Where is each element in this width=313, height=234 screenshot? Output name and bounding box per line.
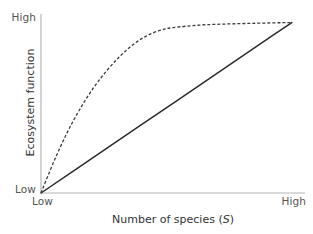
series-group — [41, 23, 292, 193]
x-axis-tick-high: High — [268, 195, 306, 207]
series-line-linear — [41, 23, 292, 193]
x-axis-title: Number of species (S) — [41, 213, 305, 226]
y-axis-tick-high: High — [0, 11, 36, 23]
x-axis-title-text: Number of species ( — [112, 213, 223, 226]
x-axis-title-variable: S — [223, 213, 230, 226]
x-axis-tick-low: Low — [32, 195, 53, 207]
x-axis-title-suffix: ) — [230, 213, 234, 226]
y-axis-tick-low: Low — [0, 183, 36, 195]
chart-figure: High Low Low High Ecosystem function Num… — [0, 0, 313, 234]
y-axis-title: Ecosystem function — [24, 23, 37, 183]
